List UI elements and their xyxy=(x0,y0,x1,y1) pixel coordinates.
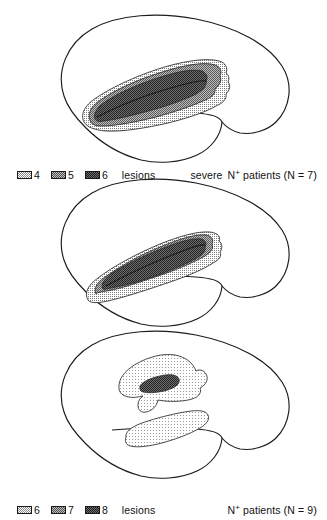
lesion-region-lower-level-2 xyxy=(125,411,208,447)
group-severity-label: severe xyxy=(190,169,222,181)
legend-item-4[interactable]: 4 xyxy=(17,170,40,181)
legend-item-6[interactable]: 6 xyxy=(85,170,108,181)
panel-severe-n-positive: 4 5 6 lesions severe N+ patients (N = 7) xyxy=(0,0,327,188)
brain-diagram-n-negative xyxy=(0,340,327,510)
legend-count-4: 4 xyxy=(34,170,40,181)
group-patients-word: patients xyxy=(243,169,281,181)
panel-n-positive: 6 7 8 lesions N+ patients (N = 9) xyxy=(0,182,327,340)
group-node-status: N+ xyxy=(228,169,240,181)
legend-count-6: 6 xyxy=(102,170,108,181)
legend-swatch-dark xyxy=(85,171,100,179)
panel-n-negative: 2 3 lesions N− patients (N = 4) xyxy=(0,340,327,520)
legend-count-5: 5 xyxy=(68,170,74,181)
legend-severe-n-positive: 4 5 6 lesions severe N+ patients (N = 7) xyxy=(0,167,327,183)
legend-swatch-medium xyxy=(51,171,66,179)
brain-diagram-severe xyxy=(0,0,327,170)
legend-item-5[interactable]: 5 xyxy=(51,170,74,181)
brain-outline-path xyxy=(61,331,289,478)
group-sample-size: (N = 7) xyxy=(284,169,317,181)
brain-diagram-n-positive xyxy=(0,182,327,332)
group-label-severe: severe N+ patients (N = 7) xyxy=(190,169,327,181)
legend-swatch-group: 4 5 6 lesions xyxy=(0,169,155,181)
legend-swatch-light xyxy=(17,171,32,179)
